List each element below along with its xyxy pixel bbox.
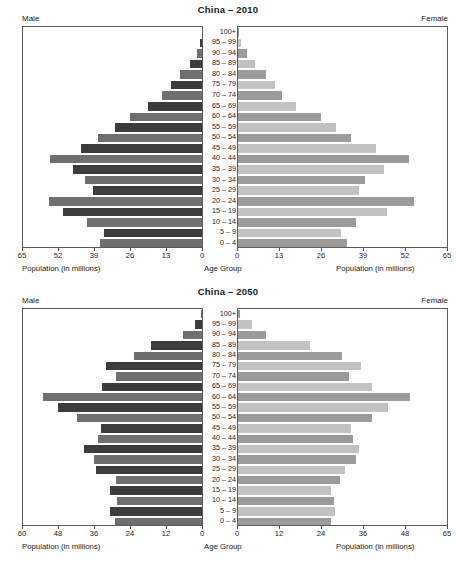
male-bar (115, 518, 202, 526)
male-bar-row (23, 101, 202, 112)
female-bar-row (238, 434, 447, 444)
female-bar (238, 435, 353, 443)
female-bar (238, 383, 372, 391)
male-x-axis-2050: 60483624120 (22, 526, 203, 542)
male-bar (63, 208, 202, 217)
male-bar (195, 320, 202, 328)
female-bar-row (238, 319, 447, 329)
age-group-label: 15 – 19 (204, 484, 236, 494)
female-bar (238, 445, 359, 453)
male-bar-row (23, 351, 202, 361)
female-bar (238, 424, 351, 432)
female-bar (238, 186, 359, 195)
population-pyramid-2010: China – 2010 Male Female 100+95 – 9990 –… (0, 0, 456, 283)
male-bar-row (23, 402, 202, 412)
axis-tick-label: 12 (162, 529, 170, 538)
male-bar (98, 134, 202, 143)
female-bar (238, 393, 410, 401)
male-bar (162, 91, 202, 100)
axis-tick-label: 13 (162, 251, 170, 260)
axis-tick-label: 24 (126, 529, 134, 538)
female-bar-row (238, 175, 447, 186)
male-bar (94, 455, 202, 463)
male-bar (100, 239, 202, 248)
age-group-label: 10 – 14 (204, 216, 236, 227)
female-bar (238, 60, 255, 69)
female-bar-row (238, 309, 447, 319)
male-bar (58, 403, 202, 411)
female-bar-row (238, 122, 447, 133)
female-plot-area-2050 (237, 308, 448, 526)
male-bar-row (23, 228, 202, 239)
female-bar-row (238, 48, 447, 59)
male-bar (43, 393, 202, 401)
male-bar-row (23, 382, 202, 392)
male-bar (200, 39, 202, 48)
female-bar (238, 341, 310, 349)
male-side-label-2010: Male (22, 14, 39, 23)
female-bar (238, 176, 365, 185)
female-bar-row (238, 101, 447, 112)
male-bar-rows-2050 (23, 309, 202, 525)
female-bar-row (238, 217, 447, 228)
female-axis-caption-2010: Population (in millions) (336, 264, 414, 273)
female-bar-row (238, 143, 447, 154)
male-bar (180, 70, 202, 79)
female-bar-row (238, 38, 447, 49)
male-bar (84, 445, 202, 453)
age-group-label: 35 – 39 (204, 443, 236, 453)
male-bar-row (23, 154, 202, 165)
female-bar (238, 155, 409, 164)
age-group-label: 60 – 64 (204, 111, 236, 122)
age-group-label: 100+ (204, 26, 236, 37)
axis-tick-label: 48 (54, 529, 62, 538)
axis-tick-label: 60 (18, 529, 26, 538)
male-bar-row (23, 48, 202, 59)
male-bar-row (23, 319, 202, 329)
female-bar (238, 320, 252, 328)
male-bar (81, 144, 202, 153)
female-bar (238, 239, 347, 248)
male-bar-row (23, 133, 202, 144)
age-group-label: 75 – 79 (204, 79, 236, 90)
female-bar (238, 70, 266, 79)
female-bar-rows-2050 (238, 309, 447, 525)
male-bar-row (23, 361, 202, 371)
female-bar (238, 123, 336, 132)
female-bar-row (238, 185, 447, 196)
male-bar-row (23, 330, 202, 340)
age-group-label: 50 – 54 (204, 132, 236, 143)
male-bar (98, 435, 202, 443)
age-group-label: 25 – 29 (204, 464, 236, 474)
age-group-label: 55 – 59 (204, 121, 236, 132)
female-plot-area-2010 (237, 26, 448, 248)
female-bar (238, 113, 321, 122)
male-bar-row (23, 90, 202, 101)
male-bar-row (23, 207, 202, 218)
axis-tick-label: 12 (275, 529, 283, 538)
female-bar (238, 49, 247, 58)
age-group-label: 65 – 69 (204, 381, 236, 391)
age-group-label: 55 – 59 (204, 401, 236, 411)
male-bar-row (23, 309, 202, 319)
male-bar-rows-2010 (23, 27, 202, 247)
male-bar-row (23, 496, 202, 506)
age-group-label: 10 – 14 (204, 495, 236, 505)
axis-tick-label: 48 (401, 529, 409, 538)
female-bar-row (238, 361, 447, 371)
axis-tick-label: 65 (443, 251, 451, 260)
male-bar-row (23, 217, 202, 228)
axis-tick-label: 39 (90, 251, 98, 260)
age-group-label: 20 – 24 (204, 195, 236, 206)
female-bar-rows-2010 (238, 27, 447, 247)
female-bar (238, 486, 331, 494)
female-bar-row (238, 423, 447, 433)
axis-tick-label: 65 (18, 251, 26, 260)
age-group-label: 0 – 4 (204, 237, 236, 248)
female-axis-caption-2050: Population (in millions) (336, 542, 414, 551)
age-group-label: 0 – 4 (204, 516, 236, 526)
male-bar-row (23, 112, 202, 123)
female-bar-row (238, 196, 447, 207)
age-group-label: 5 – 9 (204, 505, 236, 515)
male-bar-row (23, 475, 202, 485)
